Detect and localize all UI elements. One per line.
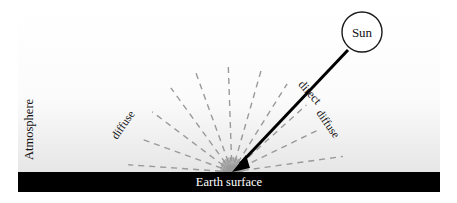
atmosphere-label: Atmosphere [22, 98, 36, 160]
solar-radiation-diagram: Earth surface Atmosphere Sun direct diff… [0, 0, 457, 203]
sun-label: Sun [352, 25, 373, 40]
earth-surface-label: Earth surface [196, 175, 263, 189]
diagram-canvas: Earth surface Atmosphere Sun direct diff… [0, 0, 457, 203]
